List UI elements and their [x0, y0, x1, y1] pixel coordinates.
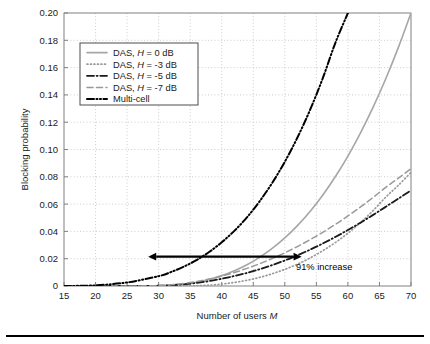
legend-label-prefix: DAS, — [113, 60, 137, 70]
x-axis-title: Number of users M — [197, 310, 278, 321]
legend-label: DAS, H = -7 dB — [113, 83, 177, 93]
legend-label-suffix: = -5 dB — [144, 71, 177, 81]
x-axis-title-symbol: M — [269, 310, 277, 321]
x-tick-label: 35 — [185, 290, 196, 301]
y-tick-label: 0.08 — [40, 171, 59, 182]
y-tick-label: 0 — [53, 280, 58, 291]
y-tick-label: 0.18 — [40, 35, 59, 46]
legend-label-prefix: DAS, — [113, 71, 137, 81]
x-tick-label: 20 — [90, 290, 101, 301]
legend-label-suffix: = -7 dB — [144, 83, 177, 93]
x-tick-label: 45 — [248, 290, 259, 301]
x-tick-label: 25 — [122, 290, 133, 301]
legend-label-prefix: DAS, — [113, 48, 137, 58]
x-tick-label: 55 — [311, 290, 322, 301]
x-axis-title-prefix: Number of users — [197, 310, 270, 321]
legend: DAS, H = 0 dBDAS, H = -3 dBDAS, H = -5 d… — [80, 43, 198, 105]
legend-label: DAS, H = -3 dB — [113, 60, 177, 70]
legend-label-suffix: = -3 dB — [144, 60, 177, 70]
figure-container: 00.020.040.060.080.100.120.140.160.180.2… — [0, 0, 430, 344]
x-tick-label: 40 — [216, 290, 227, 301]
x-tick-label: 60 — [343, 290, 354, 301]
x-tick-label: 70 — [406, 290, 417, 301]
legend-label: DAS, H = -5 dB — [113, 71, 177, 81]
y-axis-title: Blocking probability — [19, 108, 30, 190]
increase-annotation-label: 91% increase — [296, 262, 352, 272]
y-tick-label: 0.16 — [40, 62, 59, 73]
y-tick-label: 0.10 — [40, 144, 59, 155]
y-tick-label: 0.14 — [40, 89, 59, 100]
blocking-probability-chart: 00.020.040.060.080.100.120.140.160.180.2… — [0, 0, 430, 344]
y-tick-label: 0.20 — [40, 7, 59, 18]
x-tick-label: 30 — [153, 290, 164, 301]
legend-label-prefix: DAS, — [113, 83, 137, 93]
y-tick-label: 0.04 — [40, 226, 59, 237]
y-tick-label: 0.06 — [40, 199, 59, 210]
x-tick-label: 15 — [59, 290, 70, 301]
legend-label: Multi-cell — [113, 94, 150, 104]
y-tick-label: 0.12 — [40, 117, 59, 128]
legend-label-suffix: Multi-cell — [113, 94, 150, 104]
x-tick-label: 65 — [374, 290, 385, 301]
y-tick-label: 0.02 — [40, 253, 59, 264]
x-tick-label: 50 — [280, 290, 291, 301]
legend-label: DAS, H = 0 dB — [113, 48, 174, 58]
legend-label-suffix: = 0 dB — [144, 48, 174, 58]
